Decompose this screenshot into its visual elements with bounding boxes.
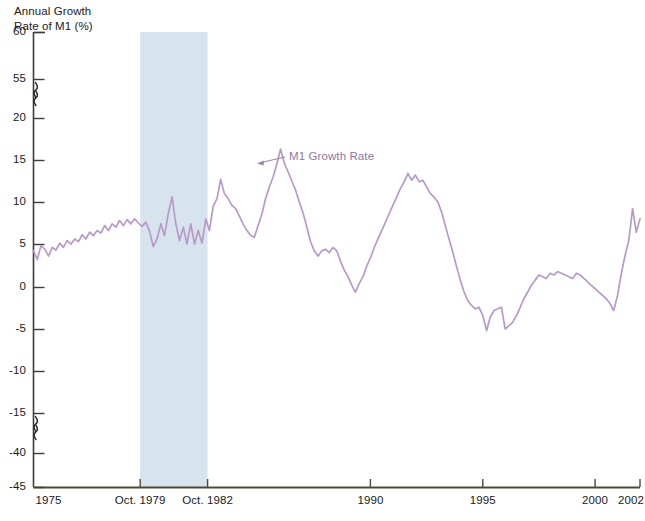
x-axis-tick-label: Oct. 1982 <box>148 494 268 506</box>
y-axis-tick-label: 20 <box>0 111 26 123</box>
y-axis-tick-label: 10 <box>0 195 26 207</box>
y-axis-break-upper-icon <box>31 83 40 106</box>
y-axis-ticks <box>34 33 45 488</box>
series-annotation-label: M1 Growth Rate <box>289 150 374 162</box>
chart-plot-area <box>0 0 645 521</box>
y-axis-tick-label: -40 <box>0 446 26 458</box>
x-axis-tick-label: 2002 <box>524 494 644 506</box>
y-axis-tick-label: 5 <box>0 237 26 249</box>
shaded-band-region <box>140 32 207 487</box>
y-axis-tick-label: -45 <box>0 480 26 492</box>
x-axis-tick-label: 1990 <box>310 494 430 506</box>
y-axis-tick-label: -10 <box>0 364 26 376</box>
y-axis-tick-label: 15 <box>0 153 26 165</box>
series-line-m1-growth-rate <box>34 149 641 331</box>
y-axis-tick-label: 0 <box>0 280 26 292</box>
x-axis-ticks <box>140 479 640 487</box>
chart-figure: Annual Growth Rate of M1 (%) M1 Growth R… <box>0 0 645 521</box>
y-axis-tick-label: 55 <box>0 72 26 84</box>
y-axis-tick-label: 60 <box>0 25 26 37</box>
annotation-arrow-icon <box>257 157 285 166</box>
y-axis-tick-label: -15 <box>0 406 26 418</box>
y-axis-tick-label: -5 <box>0 322 26 334</box>
y-axis-break-lower-icon <box>31 417 40 440</box>
